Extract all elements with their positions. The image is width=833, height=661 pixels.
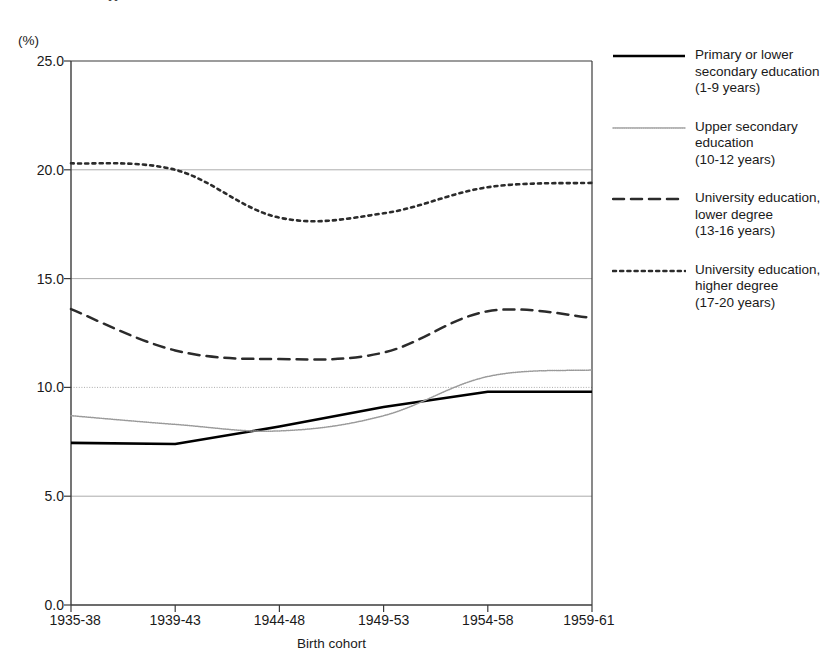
legend-label-2: University education, lower degree (13-1…: [695, 190, 820, 240]
series-line-1: [71, 370, 592, 431]
x-tick-label-1: 1939-43: [149, 612, 200, 628]
legend-swatch-dashed-icon: [612, 191, 686, 207]
y-tick-label-20.0: 20.0: [8, 163, 64, 177]
chart-legend: Primary or lower secondary education (1-…: [612, 47, 827, 333]
legend-item-0[interactable]: Primary or lower secondary education (1-…: [612, 47, 827, 97]
x-axis-tick-labels: 1935-381939-431944-481949-531954-581959-…: [71, 612, 592, 634]
y-tick-label-5.0: 5.0: [8, 489, 64, 503]
legend-item-3[interactable]: University education, higher degree (17-…: [612, 262, 827, 312]
series-line-3: [71, 163, 592, 221]
chart-figure: g (%) 0.05.010.015.020.025.0 1935-381939…: [0, 0, 833, 661]
plot-canvas: [71, 61, 592, 605]
y-axis-unit-label: (%): [18, 33, 39, 48]
legend-swatch-fine-dotted-icon: [612, 120, 686, 136]
legend-label-0: Primary or lower secondary education (1-…: [695, 47, 820, 97]
y-tick-label-25.0: 25.0: [8, 54, 64, 68]
x-tick-label-3: 1949-53: [358, 612, 409, 628]
legend-label-3: University education, higher degree (17-…: [695, 262, 820, 312]
y-tick-label-10.0: 10.0: [8, 380, 64, 394]
x-tick-label-2: 1944-48: [254, 612, 305, 628]
plot-area: [71, 61, 592, 605]
series-line-2: [71, 309, 592, 359]
legend-swatch-dotted-icon: [612, 263, 686, 279]
legend-label-1: Upper secondary education (10-12 years): [695, 119, 798, 169]
legend-swatch-solid-icon: [612, 48, 686, 64]
legend-item-1[interactable]: Upper secondary education (10-12 years): [612, 119, 827, 169]
y-tick-label-0.0: 0.0: [8, 598, 64, 612]
cropped-title-remnant: g: [108, 0, 119, 1]
x-tick-label-0: 1935-38: [49, 612, 100, 628]
x-axis-title: Birth cohort: [71, 636, 592, 651]
legend-item-2[interactable]: University education, lower degree (13-1…: [612, 190, 827, 240]
series-line-0: [71, 392, 592, 444]
y-tick-label-15.0: 15.0: [8, 272, 64, 286]
x-tick-label-5: 1959-61: [563, 612, 614, 628]
y-axis-tick-labels: 0.05.010.015.020.025.0: [0, 61, 64, 605]
x-tick-label-4: 1954-58: [462, 612, 513, 628]
